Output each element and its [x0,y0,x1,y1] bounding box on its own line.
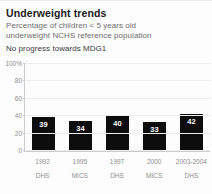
bar[interactable]: 39 [32,117,54,151]
x-axis-label-source: DHS [24,170,61,181]
x-axis-label: 2003-2004DHS [173,156,210,181]
x-axis-label-source: MICS [61,170,98,181]
bar[interactable]: 34 [69,121,91,151]
bar[interactable]: 33 [143,122,165,151]
bar-value-label: 40 [113,119,122,128]
bar-slot: 42 [173,64,210,151]
y-axis-tick-mark [23,150,25,151]
progress-note: No progress towards MDG1 [6,44,206,54]
bar-slot: 40 [99,64,136,151]
x-axis-label: 1997DHS [98,156,135,181]
bar-value-label: 42 [187,117,196,126]
x-axis-labels: 1992DHS1995MICS1997DHS2000MICS2003-2004D… [24,156,210,181]
x-axis-label-source: MICS [136,170,173,181]
bar-series: 3934403342 [25,64,210,151]
page-title: Underweight trends [6,7,206,19]
x-axis-label-year: 1995 [73,158,87,165]
bar-slot: 33 [136,64,173,151]
bar-slot: 34 [62,64,99,151]
underweight-trends-card: Underweight trends Percentage of childre… [0,0,212,194]
x-axis-label-source: DHS [173,170,210,181]
x-axis-label: 1992DHS [24,156,61,181]
y-axis-tick-mark [23,98,25,99]
subtitle-line-2: underweight NCHS reference population [6,31,206,41]
y-axis-tick-mark [23,133,25,134]
x-axis-label-year: 2003-2004 [176,158,207,165]
gridline: 40 [25,115,210,116]
gridline: 60 [25,98,210,99]
x-axis-label-year: 1997 [110,158,124,165]
subtitle-line-1: Percentage of children < 5 years old [6,21,206,31]
gridline: 0 [25,150,210,151]
card-header: Underweight trends Percentage of childre… [0,1,212,54]
underweight-bar-chart: 3934403342 100%806040200 1992DHS1995MICS… [0,58,212,194]
y-axis-tick-mark [23,80,25,81]
x-axis-label: 2000MICS [136,156,173,181]
y-axis-tick-mark [23,63,25,64]
gridline: 100% [25,63,210,64]
chart-plot-area: 3934403342 100%806040200 [24,64,210,152]
x-axis-label-source: DHS [98,170,135,181]
gridline: 80 [25,80,210,81]
bar-slot: 39 [25,64,62,151]
x-axis-label-year: 2000 [147,158,161,165]
bar-value-label: 39 [39,120,48,129]
y-axis-tick-mark [23,115,25,116]
x-axis-label: 1995MICS [61,156,98,181]
x-axis-label-year: 1992 [35,158,49,165]
gridline: 20 [25,133,210,134]
